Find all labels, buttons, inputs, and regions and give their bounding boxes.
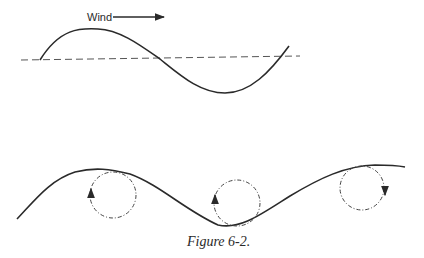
orbit-circle-3 [340,166,384,210]
figure-caption: Figure 6-2. [186,234,250,249]
orbit-circle-1 [90,172,136,218]
figure-canvas: Wind Figure 6-2. [0,0,424,258]
bottom-wave-diagram [17,165,405,226]
sine-wave [40,29,289,93]
wave-surface [17,165,405,226]
wind-label: Wind [87,11,112,23]
top-wave-diagram: Wind [21,11,300,93]
